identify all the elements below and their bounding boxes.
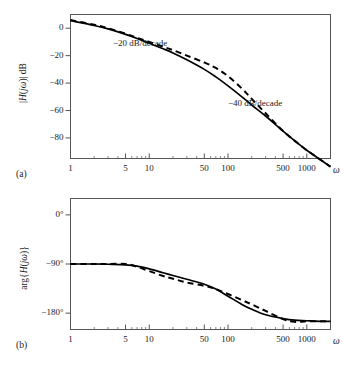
panel-tag-b: (b) <box>16 340 27 350</box>
y-tick-label: −90° <box>24 258 64 268</box>
y-tick-label: −20 <box>24 50 64 60</box>
phase-x-axis-label: ω <box>333 336 340 346</box>
phase-y-axis-label: arg{H(jω)} <box>19 220 29 316</box>
phase-panel: arg{H(jω)} (b) ω 15105010050010000°−90°−… <box>0 185 343 370</box>
y-tick-label: −60 <box>24 105 64 115</box>
x-tick-label: 100 <box>208 334 248 344</box>
asymptote-curve <box>71 20 331 167</box>
annotation-40db-decade: −40 dB/decade <box>228 98 282 108</box>
response-curve <box>71 264 331 321</box>
x-tick-label: 1 <box>51 334 91 344</box>
y-tick-label: 0° <box>24 209 64 219</box>
x-tick-label: 1 <box>51 163 91 173</box>
x-tick-label: 100 <box>208 163 248 173</box>
asymptote-curve <box>71 264 331 322</box>
x-tick-label: 10 <box>129 334 169 344</box>
x-tick-label: 1000 <box>287 163 327 173</box>
y-tick-label: −40 <box>24 77 64 87</box>
annotation-20db-decade: −20 dB/decade <box>113 38 167 48</box>
y-tick-label: −80 <box>24 132 64 142</box>
y-tick-label: 0 <box>24 22 64 32</box>
response-curve <box>71 21 331 167</box>
x-tick-label: 10 <box>129 163 169 173</box>
bode-figure: |H(jω)| dB (a) ω −20 dB/decade −40 dB/de… <box>0 0 343 370</box>
magnitude-x-axis-label: ω <box>333 165 340 175</box>
x-tick-label: 1000 <box>287 334 327 344</box>
y-tick-label: −180° <box>24 307 64 317</box>
panel-tag-a: (a) <box>16 169 27 179</box>
magnitude-panel: |H(jω)| dB (a) ω −20 dB/decade −40 dB/de… <box>0 0 343 185</box>
